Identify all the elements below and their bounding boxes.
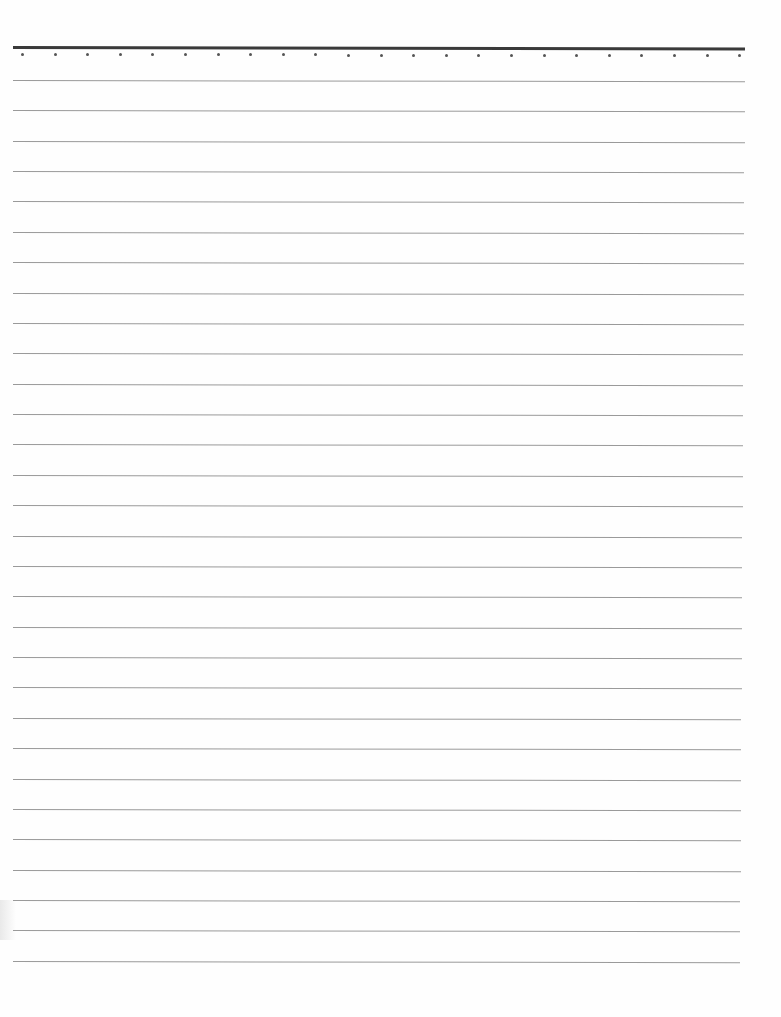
margin-dot	[510, 54, 513, 57]
margin-dots-row	[0, 53, 781, 59]
margin-dot	[119, 53, 122, 56]
ruled-line	[13, 839, 741, 841]
ruled-line	[13, 961, 740, 963]
ruled-line	[13, 718, 741, 720]
margin-dot	[640, 54, 643, 57]
ruled-line	[13, 323, 744, 325]
ruled-line	[13, 80, 745, 82]
margin-dot	[575, 54, 578, 57]
margin-dot	[738, 54, 741, 57]
ruled-line	[13, 596, 742, 598]
margin-dot	[543, 54, 546, 57]
margin-dot	[151, 53, 154, 56]
ruled-line	[13, 141, 745, 143]
margin-dot	[412, 54, 415, 57]
margin-dot	[706, 54, 709, 57]
ruled-line	[13, 262, 744, 264]
margin-dot	[86, 53, 89, 56]
ruled-line	[13, 232, 744, 234]
ruled-line	[13, 475, 743, 477]
ruled-line	[13, 353, 743, 355]
ruled-line	[13, 930, 740, 932]
margin-dot	[477, 54, 480, 57]
margin-dot	[249, 53, 252, 56]
header-rule	[13, 46, 745, 51]
ruled-line	[13, 779, 741, 781]
margin-dot	[217, 53, 220, 56]
ruled-line	[13, 110, 745, 112]
margin-dot	[21, 53, 24, 56]
margin-dot	[282, 53, 285, 56]
ruled-line	[13, 870, 741, 872]
ruled-line	[13, 171, 744, 173]
ruled-line	[13, 657, 742, 659]
margin-dot	[673, 54, 676, 57]
ruled-line	[13, 900, 740, 902]
scan-edge-shadow	[0, 900, 16, 940]
margin-dot	[445, 54, 448, 57]
ruled-line	[13, 536, 742, 538]
margin-dot	[184, 53, 187, 56]
ruled-line	[13, 748, 741, 750]
ruled-line	[13, 505, 743, 507]
margin-dot	[380, 54, 383, 57]
ruled-line	[13, 201, 744, 203]
ruled-line	[13, 414, 743, 416]
ruled-line	[13, 293, 744, 295]
ruled-line	[13, 627, 742, 629]
margin-dot	[347, 54, 350, 57]
margin-dot	[314, 53, 317, 56]
ruled-line	[13, 444, 743, 446]
margin-dot	[608, 54, 611, 57]
ruled-line	[13, 566, 742, 568]
ruled-line	[13, 809, 741, 811]
lined-paper-page	[0, 0, 781, 1017]
ruled-line	[13, 687, 742, 689]
margin-dot	[54, 53, 57, 56]
ruled-line	[13, 384, 743, 386]
